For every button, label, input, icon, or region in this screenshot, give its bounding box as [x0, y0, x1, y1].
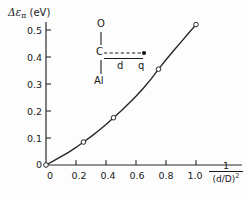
data-curve-line: [46, 25, 196, 165]
inset-point-charge-marker: [142, 51, 146, 55]
inset-diagram: [101, 32, 146, 74]
y-axis-ticks: [46, 30, 51, 138]
data-point-marker: [44, 163, 49, 168]
axis-lines: [46, 22, 242, 165]
data-point-markers: [44, 22, 199, 167]
figure-container: Δεπ (eV) 0.5 0.4 0.3 0.2 0.1 0 0 0.2 0.4…: [0, 0, 248, 200]
data-point-marker: [156, 67, 161, 72]
data-point-marker: [111, 115, 116, 120]
x-axis-ticks: [76, 160, 196, 165]
data-point-marker: [194, 22, 199, 27]
data-point-marker: [81, 140, 86, 145]
plot-area: [0, 0, 248, 200]
